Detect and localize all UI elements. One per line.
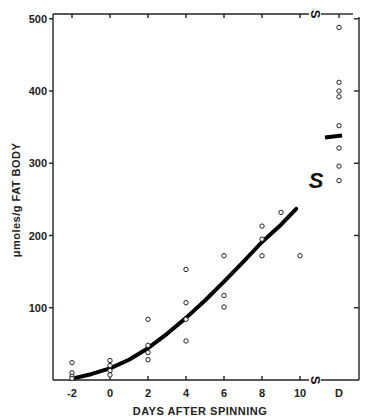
data-point [146, 343, 150, 347]
data-point [222, 293, 226, 297]
x-tick-label: -2 [67, 387, 77, 399]
data-point [260, 254, 264, 258]
axis-ticks [49, 14, 359, 380]
data-point [184, 267, 188, 271]
data-point [337, 80, 341, 84]
data-point [184, 300, 188, 304]
data-point [337, 89, 341, 93]
data-point [260, 237, 264, 241]
y-tick-label: 500 [29, 13, 47, 25]
x-axis-title: DAYS AFTER SPINNING [133, 405, 268, 417]
y-tick-label: 100 [29, 302, 47, 314]
x-tick-label: 4 [183, 387, 190, 399]
data-point [146, 358, 150, 362]
y-tick-label: 400 [29, 85, 47, 97]
data-point [337, 25, 341, 29]
x-tick-label: 8 [259, 387, 265, 399]
data-point [337, 178, 341, 182]
fitted-curve-line [72, 209, 296, 379]
x-tick-label: 6 [221, 387, 227, 399]
data-point [108, 358, 112, 362]
data-point [337, 95, 341, 99]
x-tick-label: 10 [294, 387, 306, 399]
mean-bar [325, 136, 342, 138]
data-point [146, 350, 150, 354]
data-point [70, 376, 74, 380]
data-point [108, 373, 112, 377]
x-tick-label: 0 [107, 387, 113, 399]
data-point [184, 317, 188, 321]
data-point [184, 339, 188, 343]
x-tick-label-d: D [335, 387, 343, 399]
data-point [222, 254, 226, 258]
data-points [70, 25, 341, 381]
y-tick-label: 200 [29, 230, 47, 242]
data-point [70, 360, 74, 364]
axis-break-top: S [308, 10, 323, 19]
y-axis-title: μmoles/g FAT BODY [10, 143, 22, 258]
data-point [337, 164, 341, 168]
data-point [108, 363, 112, 367]
data-point [146, 317, 150, 321]
data-point [108, 368, 112, 372]
y-tick-label: 300 [29, 157, 47, 169]
data-point [260, 224, 264, 228]
x-tick-label: 2 [145, 387, 151, 399]
data-point [337, 123, 341, 127]
chart: SSS 100200300400500-20246810DDAYS AFTER … [0, 0, 371, 420]
data-point [298, 254, 302, 258]
axis-break-bottom: S [308, 376, 323, 385]
large-break-marker: S [309, 168, 324, 193]
data-point [222, 305, 226, 309]
data-point [279, 210, 283, 214]
plot-frame: SSS [53, 10, 359, 385]
data-point [337, 146, 341, 150]
